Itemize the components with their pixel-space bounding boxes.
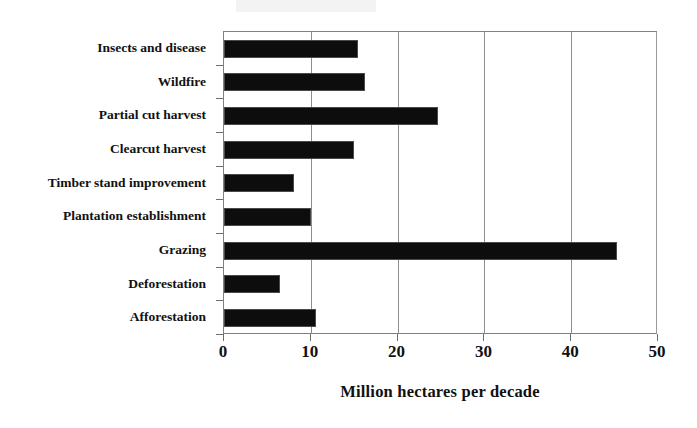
bar — [224, 242, 617, 260]
x-axis-tick-label: 30 — [453, 343, 513, 360]
x-axis-tick-mark — [310, 334, 311, 341]
x-axis-tick-label: 10 — [280, 343, 340, 360]
y-axis-tick-mark — [216, 300, 223, 301]
y-axis-tick-mark — [216, 132, 223, 133]
y-axis-label: Plantation establishment — [0, 209, 206, 223]
bar — [224, 208, 311, 226]
bar-row — [224, 167, 656, 201]
x-axis-tick-label: 20 — [367, 343, 427, 360]
y-axis-label: Clearcut harvest — [0, 142, 206, 156]
y-axis-tick-mark — [216, 233, 223, 234]
bar — [224, 275, 280, 293]
y-axis-label: Insects and disease — [0, 41, 206, 55]
y-axis-tick-mark — [216, 199, 223, 200]
bar-chart-figure: Insects and diseaseWildfirePartial cut h… — [0, 0, 697, 428]
x-axis-tick-mark — [570, 334, 571, 341]
scan-artifact — [236, 0, 376, 12]
x-axis-tick-label: 40 — [540, 343, 600, 360]
y-axis-tick-mark — [216, 166, 223, 167]
x-axis-tick-mark — [397, 334, 398, 341]
y-axis-tick-mark — [216, 267, 223, 268]
y-axis-label: Timber stand improvement — [0, 176, 206, 190]
y-axis-tick-mark — [216, 65, 223, 66]
y-axis-label: Afforestation — [0, 310, 206, 324]
bar-row — [224, 200, 656, 234]
y-axis-label: Deforestation — [0, 277, 206, 291]
bar-row — [224, 133, 656, 167]
bar-row — [224, 301, 656, 335]
y-axis-tick-mark — [216, 98, 223, 99]
x-axis-tick-mark — [657, 334, 658, 341]
plot-area — [223, 31, 657, 334]
x-axis-tick-mark — [223, 334, 224, 341]
x-axis-title: Million hectares per decade — [223, 382, 657, 402]
y-axis-label: Wildfire — [0, 75, 206, 89]
bar — [224, 107, 438, 125]
bar — [224, 141, 354, 159]
bar — [224, 40, 358, 58]
x-axis: 01020304050 — [223, 334, 657, 374]
bar-row — [224, 66, 656, 100]
bar-row — [224, 32, 656, 66]
x-axis-tick-label: 50 — [627, 343, 687, 360]
bar-row — [224, 234, 656, 268]
bar — [224, 174, 294, 192]
bar — [224, 309, 316, 327]
bar — [224, 73, 365, 91]
y-axis-category-labels: Insects and diseaseWildfirePartial cut h… — [0, 31, 216, 334]
x-axis-tick-label: 0 — [193, 343, 253, 360]
x-axis-tick-mark — [483, 334, 484, 341]
y-axis-tick-mark — [216, 334, 223, 335]
bar-row — [224, 99, 656, 133]
y-axis-label: Partial cut harvest — [0, 108, 206, 122]
y-axis-label: Grazing — [0, 243, 206, 257]
bar-row — [224, 268, 656, 302]
